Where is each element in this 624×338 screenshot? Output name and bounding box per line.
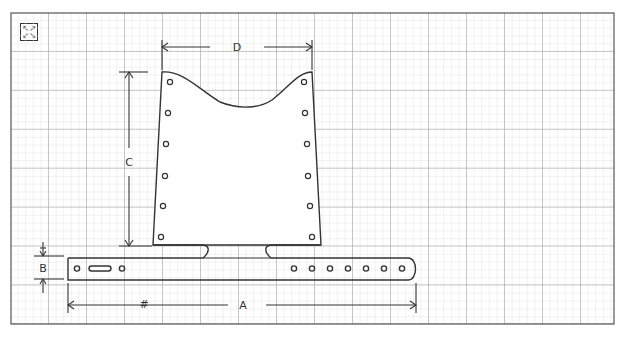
dimension-label-d: D (233, 41, 241, 54)
base-bar-slot (89, 266, 111, 271)
drawing-canvas: D C B # A (0, 0, 624, 338)
dimension-label-hash: # (139, 298, 148, 311)
dimension-label-c: C (125, 156, 133, 169)
dimension-label-a: A (239, 299, 247, 312)
dimension-label-b: B (39, 262, 47, 275)
